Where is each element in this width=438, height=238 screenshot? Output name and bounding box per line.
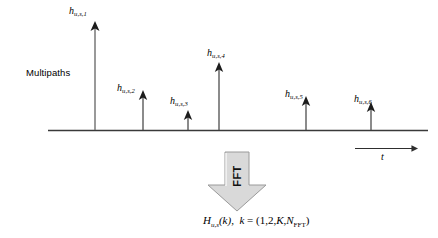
- impulse-arrow-6: [367, 102, 375, 130]
- impulse-label-1-sub: u,s,1: [74, 10, 87, 17]
- formula-H: H: [203, 214, 211, 226]
- formula-K: K: [276, 214, 283, 226]
- impulse-label-3-sub: u,s,3: [175, 100, 188, 107]
- impulse-label-6-sub: u,s,6: [359, 98, 372, 105]
- impulse-arrow-1: [91, 21, 100, 130]
- formula-close: ): [306, 214, 310, 226]
- formula-N: N: [286, 214, 293, 226]
- multipaths-label: Multipaths: [26, 68, 70, 78]
- formula-arg: (k),: [219, 214, 234, 226]
- impulse-label-2-sub: u,s,2: [122, 87, 135, 94]
- impulse-label-5-sub: u,s,5: [290, 93, 303, 100]
- formula-equals: = (1,2,: [247, 214, 276, 226]
- formula-k: k: [239, 214, 244, 226]
- impulse-label-1: hu,s,1: [69, 6, 87, 16]
- impulse-label-6: hu,s,6: [354, 94, 372, 104]
- impulse-label-3: hu,s,3: [170, 96, 188, 106]
- impulse-label-4-sub: u,s,4: [212, 52, 225, 59]
- time-axis-label: t: [381, 152, 384, 162]
- multipath-fft-diagram: Multipaths hu,s,1 hu,s,2 hu,s,3 hu,s,4 h…: [0, 0, 438, 238]
- formula-H-sub: u,s: [211, 221, 219, 229]
- formula-N-sub: FFT: [294, 221, 306, 229]
- impulse-arrow-4: [215, 62, 223, 130]
- output-formula: Hu,s(k), k = (1,2,K,NFFT): [203, 214, 309, 226]
- impulse-label-4: hu,s,4: [207, 48, 225, 58]
- diagram-vector-layer: [0, 0, 438, 238]
- impulse-label-5: hu,s,5: [285, 89, 303, 99]
- impulse-arrow-5: [302, 96, 310, 130]
- impulse-arrow-2: [139, 90, 147, 130]
- impulse-label-2: hu,s,2: [117, 83, 135, 93]
- impulse-arrow-3: [184, 110, 192, 130]
- fft-label: FFT: [231, 164, 243, 188]
